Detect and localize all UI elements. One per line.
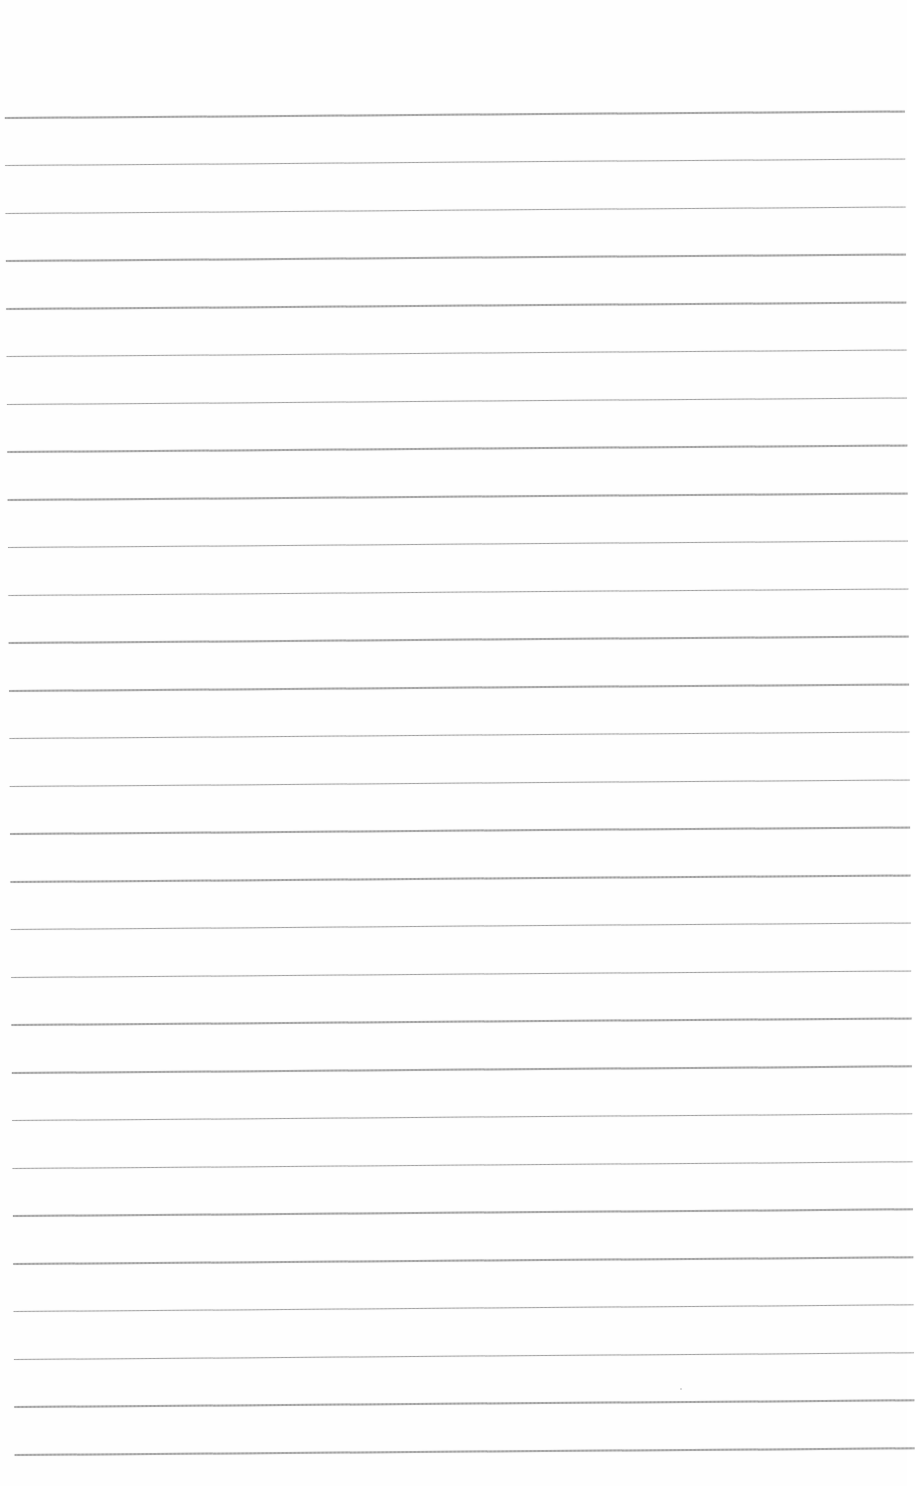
ruled-line [15, 1447, 915, 1455]
paper-speck [680, 1388, 682, 1390]
ruled-line [9, 683, 909, 691]
ruled-line [10, 779, 910, 787]
ruled-line [13, 1161, 913, 1169]
ruled-line [6, 206, 906, 214]
ruled-line [10, 874, 910, 882]
ruled-line [12, 1113, 912, 1121]
ruled-line [14, 1400, 914, 1408]
ruled-line [8, 492, 908, 500]
ruled-line [11, 922, 911, 930]
ruled-line [12, 1018, 912, 1026]
ruled-line [5, 158, 905, 166]
ruled-line [11, 970, 911, 978]
ruled-line [6, 254, 906, 262]
ruled-line [7, 349, 907, 357]
ruled-line [9, 731, 909, 739]
ruled-line [9, 636, 909, 644]
ruled-line [14, 1352, 914, 1360]
ruled-line [7, 397, 907, 405]
ruled-line [12, 1065, 912, 1073]
ruled-line [14, 1304, 914, 1312]
ruled-lines [4, 0, 915, 1486]
ruled-line [5, 110, 905, 118]
ruled-line [13, 1209, 913, 1217]
ruled-line [10, 827, 910, 835]
ruled-line [7, 445, 907, 453]
ruled-line [8, 588, 908, 596]
ruled-line [13, 1256, 913, 1264]
ruled-line [8, 540, 908, 548]
ruled-line [6, 301, 906, 309]
